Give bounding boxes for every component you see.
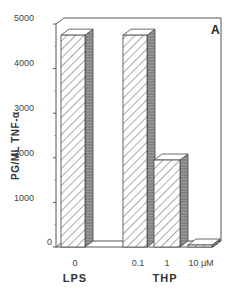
bar-0 bbox=[61, 29, 93, 247]
xtick-thp-10um: 10 μM bbox=[184, 258, 218, 268]
panel-label: A bbox=[211, 23, 220, 37]
group-label-lps: LPS bbox=[55, 272, 95, 284]
bars bbox=[61, 29, 220, 247]
ytick-0: 0 bbox=[12, 237, 52, 247]
y-axis-label: PG/ML TNF-α bbox=[10, 111, 21, 180]
xtick-lps-0: 0 bbox=[60, 258, 90, 268]
ytick-1000: 1000 bbox=[0, 193, 34, 203]
bar-1 bbox=[154, 154, 188, 247]
xtick-thp-1: 1 bbox=[152, 258, 182, 268]
ytick-5000: 5000 bbox=[0, 13, 34, 23]
group-label-thp: THP bbox=[145, 272, 185, 284]
xtick-thp-0.1: 0.1 bbox=[123, 258, 153, 268]
bar-0.1 bbox=[123, 29, 155, 247]
ytick-4000: 4000 bbox=[0, 58, 34, 68]
